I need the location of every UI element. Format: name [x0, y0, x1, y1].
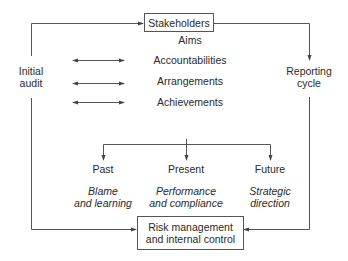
- initial-audit-line1: Initial: [6, 65, 56, 77]
- future-desc-line2: direction: [235, 197, 305, 209]
- relation-achievements: Achievements: [142, 96, 238, 108]
- branch-future-desc: Strategic direction: [235, 185, 305, 209]
- initial-audit-line2: audit: [6, 77, 56, 89]
- past-desc-line2: and learning: [68, 197, 138, 209]
- relation-aims: Aims: [150, 34, 230, 46]
- branch-past-desc: Blame and learning: [68, 185, 138, 209]
- risk-management-box: Risk management and internal control: [137, 216, 244, 250]
- relation-accountabilities: Accountabilities: [142, 54, 238, 66]
- stakeholders-label: Stakeholders: [148, 17, 209, 29]
- reporting-cycle-line2: cycle: [279, 77, 339, 89]
- relation-arrangements: Arrangements: [142, 75, 238, 87]
- present-desc-line1: Performance: [146, 185, 226, 197]
- branch-present-title: Present: [156, 163, 216, 175]
- risk-box-line2: and internal control: [146, 233, 235, 245]
- risk-box-line1: Risk management: [148, 221, 233, 233]
- reporting-cycle-node: Reporting cycle: [279, 65, 339, 89]
- branch-future-title: Future: [240, 163, 300, 175]
- future-desc-line1: Strategic: [235, 185, 305, 197]
- present-desc-line2: and compliance: [146, 197, 226, 209]
- stakeholders-box: Stakeholders: [144, 13, 214, 32]
- branch-present-desc: Performance and compliance: [146, 185, 226, 209]
- audit-to-stakeholders-line: [32, 24, 144, 57]
- past-desc-line1: Blame: [68, 185, 138, 197]
- branch-past-title: Past: [73, 163, 133, 175]
- reporting-cycle-line1: Reporting: [279, 65, 339, 77]
- initial-audit-node: Initial audit: [6, 65, 56, 89]
